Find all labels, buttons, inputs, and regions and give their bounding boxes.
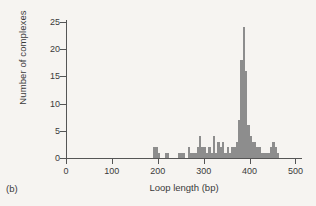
x-tick-label: 500 <box>275 167 315 176</box>
y-axis-title: Number of complexes <box>17 0 28 128</box>
x-axis-title: Loop length (bp) <box>66 182 302 193</box>
x-tick-label: 300 <box>184 167 224 176</box>
panel-label: (b) <box>6 183 18 194</box>
x-tick-label: 100 <box>92 167 132 176</box>
histogram-figure: Number of complexes 0510152025 010020030… <box>0 0 316 206</box>
y-tick-label: 15 <box>36 72 60 81</box>
histogram-bar <box>167 153 169 158</box>
y-tick-label: 10 <box>36 100 60 109</box>
histogram-bar <box>277 153 279 158</box>
histogram-bars <box>66 22 300 158</box>
histogram-bar <box>158 153 160 158</box>
x-tick-mark <box>158 158 159 164</box>
y-tick-label: 0 <box>36 154 60 163</box>
y-tick-label: 25 <box>36 18 60 27</box>
y-tick-label: 20 <box>36 45 60 54</box>
x-tick-mark <box>250 158 251 164</box>
plot-area <box>66 22 300 158</box>
x-tick-label: 400 <box>230 167 270 176</box>
x-tick-mark <box>66 158 67 164</box>
histogram-bar <box>183 153 185 158</box>
x-tick-label: 0 <box>46 167 86 176</box>
x-tick-label: 200 <box>138 167 178 176</box>
x-tick-mark <box>112 158 113 164</box>
y-tick-label: 5 <box>36 127 60 136</box>
x-tick-mark <box>295 158 296 164</box>
x-tick-mark <box>204 158 205 164</box>
x-axis-line <box>66 158 302 159</box>
